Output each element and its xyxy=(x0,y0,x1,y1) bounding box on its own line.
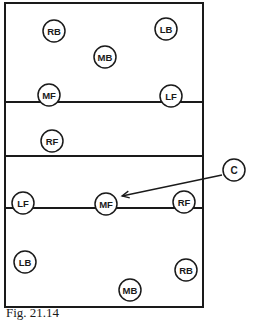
player-label: RF xyxy=(178,197,191,208)
player-marker-rf: RF xyxy=(173,191,195,213)
player-markers: RBLBMBMFLFRFLFMFRFLBRBMB xyxy=(12,18,197,301)
player-marker-lf: LF xyxy=(160,85,182,107)
player-label: LF xyxy=(17,198,29,209)
arrow-line xyxy=(122,175,222,196)
player-marker-mf: MF xyxy=(95,193,117,215)
player-label: MB xyxy=(123,285,138,296)
player-marker-rb: RB xyxy=(175,259,197,281)
player-label: LF xyxy=(165,91,177,102)
volleyball-court-diagram: RBLBMBMFLFRFLFMFRFLBRBMB C xyxy=(0,0,254,320)
player-marker-mf: MF xyxy=(38,84,60,106)
player-marker-lb: LB xyxy=(155,18,177,40)
player-label: RF xyxy=(46,136,59,147)
player-marker-mb: MB xyxy=(119,279,141,301)
player-marker-mb: MB xyxy=(94,46,116,68)
player-label: LB xyxy=(160,24,173,35)
player-label: MB xyxy=(98,52,113,63)
player-marker-rf: RF xyxy=(41,130,63,152)
player-label: MF xyxy=(99,199,113,210)
player-label: RB xyxy=(47,26,61,37)
player-label: MF xyxy=(42,90,56,101)
player-marker-rb: RB xyxy=(43,20,65,42)
player-marker-lb: LB xyxy=(14,251,36,273)
player-label: RB xyxy=(179,265,193,276)
player-marker-lf: LF xyxy=(12,192,34,214)
callout-label: C xyxy=(230,165,237,176)
player-label: LB xyxy=(19,257,32,268)
figure-caption: Fig. 21.14 xyxy=(6,305,59,320)
